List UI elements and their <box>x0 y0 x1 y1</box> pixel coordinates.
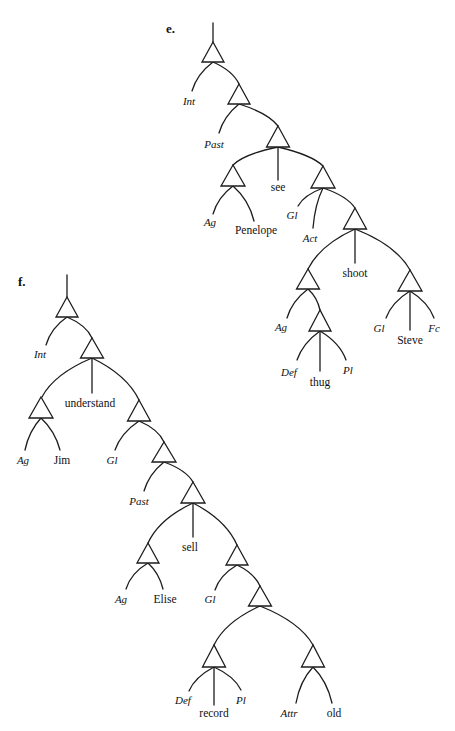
branch-line <box>239 104 278 126</box>
branch-line <box>355 229 410 270</box>
leaf-label: Int <box>182 95 196 107</box>
node-triangle-icon <box>137 543 159 563</box>
leaf-label: shoot <box>343 267 369 279</box>
leaf-label: Ag <box>114 593 128 605</box>
leaf-label: Penelope <box>235 224 277 237</box>
branch-line <box>233 147 278 165</box>
branch-line <box>215 565 237 590</box>
tree-f-marker: f. <box>18 274 26 289</box>
branch-line <box>214 667 241 690</box>
branch-line <box>214 606 260 645</box>
tree-f: f. <box>16 274 342 719</box>
leaf-label: Ag <box>203 216 217 228</box>
branch-line <box>164 462 193 482</box>
branch-line <box>67 317 92 338</box>
leaf-label: Pl <box>235 694 246 706</box>
leaf-label: understand <box>65 397 116 409</box>
branch-line <box>323 188 355 208</box>
branch-line <box>320 331 346 360</box>
branch-line <box>115 421 139 450</box>
branch-line <box>296 667 313 703</box>
branch-line <box>42 358 92 397</box>
node-triangle-icon <box>267 126 290 147</box>
branch-line <box>189 667 214 691</box>
leaf-label: old <box>327 707 342 719</box>
node-triangle-icon <box>309 310 331 331</box>
node-triangle-icon <box>311 166 335 188</box>
branch-line <box>193 503 237 545</box>
branch-line <box>219 104 239 133</box>
leaf-label: Ag <box>274 321 288 333</box>
leaf-label: see <box>271 181 286 193</box>
node-triangle-icon <box>226 545 248 565</box>
branch-line <box>386 291 410 318</box>
leaf-label: Pl <box>342 364 353 376</box>
leaf-label: Elise <box>154 593 177 605</box>
leaf-label: Jim <box>54 454 71 466</box>
leaf-label: Gl <box>205 593 216 605</box>
branch-line <box>213 186 233 214</box>
branch-line <box>410 291 434 318</box>
leaf-label: Gl <box>107 454 118 466</box>
node-triangle-icon <box>181 482 205 503</box>
branch-line <box>192 62 213 91</box>
branch-line <box>278 147 323 166</box>
leaf-label: Fc <box>427 322 440 334</box>
node-triangle-icon <box>56 297 78 317</box>
leaf-label: Act <box>302 232 319 244</box>
node-triangle-icon <box>344 208 367 229</box>
node-triangle-icon <box>202 42 224 62</box>
branch-line <box>213 62 239 84</box>
node-triangle-icon <box>221 165 245 186</box>
branch-line <box>46 317 67 345</box>
node-triangle-icon <box>152 442 176 462</box>
branch-line <box>144 462 164 491</box>
branch-line <box>25 418 41 450</box>
leaf-label: Gl <box>374 322 385 334</box>
leaf-label: Attr <box>279 707 298 719</box>
branch-line <box>148 563 163 589</box>
tree-e-marker: e. <box>166 21 175 36</box>
node-triangle-icon <box>398 270 422 291</box>
branch-line <box>139 421 164 442</box>
node-triangle-icon <box>81 338 104 358</box>
branch-line <box>297 331 320 360</box>
branch-line <box>313 667 332 703</box>
leaf-label: Def <box>174 694 193 706</box>
node-triangle-icon <box>29 397 53 418</box>
branch-line <box>233 186 254 221</box>
branch-line <box>148 503 193 543</box>
tree-diagram-figure: e. Int Pa <box>0 0 455 731</box>
branch-line <box>313 188 323 228</box>
branch-line <box>237 565 260 586</box>
leaf-label: Steve <box>397 334 423 346</box>
branch-line <box>260 606 313 645</box>
leaf-label: record <box>199 707 229 719</box>
leaf-label: Def <box>280 366 299 378</box>
branch-line <box>287 289 308 318</box>
branch-line <box>308 289 320 310</box>
branch-line <box>92 358 139 400</box>
leaf-label: Past <box>203 138 225 150</box>
node-triangle-icon <box>297 269 320 289</box>
leaf-label: Past <box>128 495 150 507</box>
leaf-label: Int <box>33 348 47 360</box>
node-triangle-icon <box>128 400 151 421</box>
node-triangle-icon <box>228 84 250 104</box>
branch-line <box>126 563 148 589</box>
node-triangle-icon <box>249 586 272 606</box>
node-triangle-icon <box>203 645 226 667</box>
leaf-label: Ag <box>16 454 30 466</box>
branch-line <box>41 418 60 450</box>
leaf-label: sell <box>182 541 198 553</box>
leaf-label: Gl <box>287 209 298 221</box>
leaf-label: thug <box>310 376 331 389</box>
node-triangle-icon <box>302 645 325 667</box>
tree-e: e. Int Pa <box>166 21 440 389</box>
